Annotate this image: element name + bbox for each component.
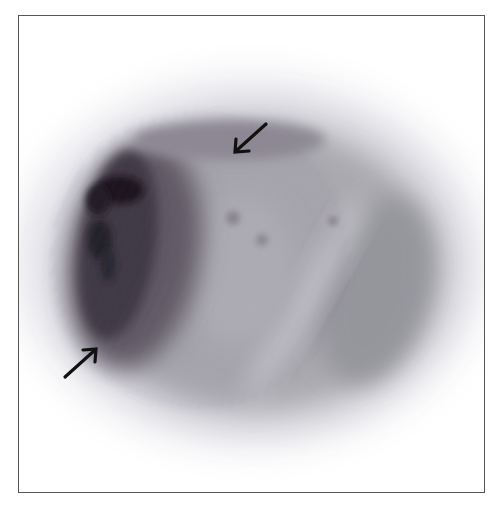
scan-image: [0, 0, 498, 510]
